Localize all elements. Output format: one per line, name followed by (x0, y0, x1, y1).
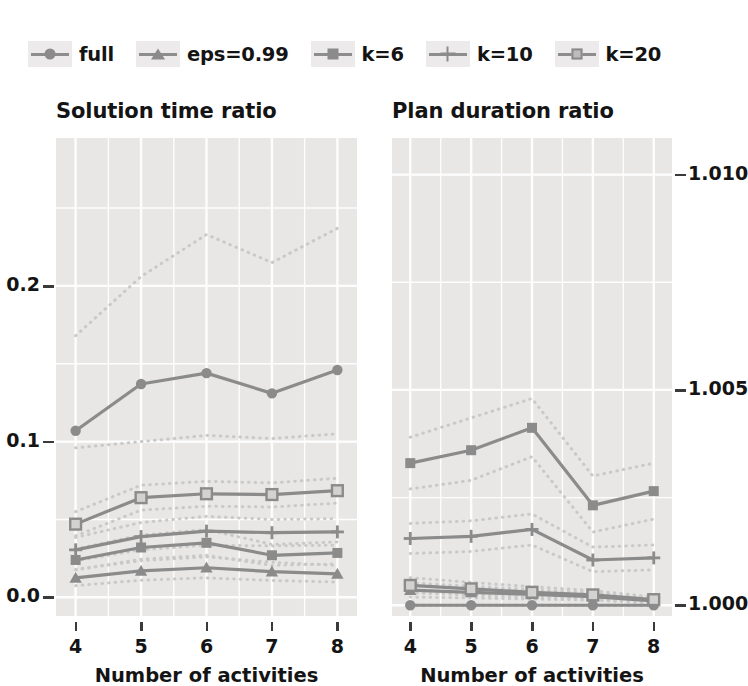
y-tick-label: 0.1 (6, 429, 40, 451)
data-point-k=6 (202, 538, 212, 548)
data-point-k=6 (466, 445, 476, 455)
y-tick-mark (43, 285, 54, 288)
data-point-k=20 (332, 485, 343, 496)
triangle-marker-icon (136, 41, 180, 67)
plot-area-solution-time-ratio (56, 138, 357, 616)
data-point-k=20 (466, 583, 477, 594)
x-tick-label: 4 (398, 635, 422, 657)
x-tick-mark (470, 622, 473, 631)
legend-item-k20: k=20 (555, 41, 662, 67)
data-point-full (527, 600, 537, 610)
x-tick-label: 7 (260, 635, 284, 657)
x-tick-label: 8 (642, 635, 666, 657)
data-point-full (588, 600, 598, 610)
legend-label: k=6 (362, 43, 404, 66)
y-tick-label: 1.005 (688, 377, 748, 399)
data-point-k=6 (267, 550, 277, 560)
plus-marker-icon (426, 41, 470, 67)
x-tick-mark (592, 622, 595, 631)
data-point-k=10 (404, 532, 417, 545)
y-tick-label: 0.0 (6, 584, 40, 606)
y-tick-label: 1.000 (688, 592, 748, 614)
data-point-k=10 (331, 525, 344, 538)
data-point-k=20 (70, 519, 81, 530)
legend-item-full: full (28, 41, 114, 67)
y-tick-mark (675, 604, 686, 607)
x-tick-mark (409, 622, 412, 631)
chart-canvas (392, 138, 672, 616)
data-point-k=10 (69, 543, 82, 556)
y-tick-mark (43, 441, 54, 444)
x-tick-label: 8 (325, 635, 349, 657)
plot-area-plan-duration-ratio (392, 138, 672, 616)
data-point-k=6 (527, 423, 537, 433)
data-point-k=10 (647, 551, 660, 564)
data-point-k=20 (201, 488, 212, 499)
legend-label: k=20 (606, 43, 662, 66)
data-point-k=6 (649, 486, 659, 496)
data-point-full (201, 368, 211, 378)
data-point-full (405, 600, 415, 610)
y-tick-mark (675, 389, 686, 392)
gridlines (392, 138, 672, 616)
panel-title-left: Solution time ratio (56, 99, 277, 123)
open-square-marker-icon (555, 41, 599, 67)
legend-label: full (79, 43, 114, 66)
x-tick-mark (140, 622, 143, 631)
y-tick-label: 0.2 (6, 273, 40, 295)
data-point-k=20 (405, 580, 416, 591)
data-point-k=10 (200, 525, 213, 538)
data-point-k=6 (136, 542, 146, 552)
x-tick-mark (271, 622, 274, 631)
x-tick-mark (653, 622, 656, 631)
x-tick-mark (531, 622, 534, 631)
panel-title-right: Plan duration ratio (392, 99, 614, 123)
x-tick-label: 6 (195, 635, 219, 657)
data-point-k=6 (405, 458, 415, 468)
data-point-full (332, 365, 342, 375)
legend-item-k6: k=6 (311, 41, 404, 67)
data-point-k=20 (136, 492, 147, 503)
chart-canvas (56, 138, 357, 616)
y-tick-mark (43, 596, 54, 599)
data-point-full (70, 426, 80, 436)
data-point-full (136, 379, 146, 389)
x-tick-label: 5 (459, 635, 483, 657)
data-point-k=10 (586, 554, 599, 567)
data-point-k=10 (465, 530, 478, 543)
x-tick-label: 6 (520, 635, 544, 657)
data-point-k=10 (265, 526, 278, 539)
data-point-k=20 (587, 589, 598, 600)
square-marker-icon (311, 41, 355, 67)
circle-marker-icon (28, 41, 72, 67)
x-tick-label: 5 (129, 635, 153, 657)
x-tick-label: 7 (581, 635, 605, 657)
data-point-k=6 (71, 555, 81, 565)
data-point-k=20 (648, 594, 659, 605)
legend-item-eps: eps=0.99 (136, 41, 289, 67)
y-tick-mark (675, 174, 686, 177)
legend-label: eps=0.99 (187, 43, 289, 66)
data-point-k=20 (267, 489, 278, 500)
x-axis-title: Number of activities (56, 664, 357, 686)
x-tick-mark (75, 622, 78, 631)
data-point-k=10 (526, 523, 539, 536)
data-point-full (267, 388, 277, 398)
y-tick-label: 1.010 (688, 162, 748, 184)
data-point-k=10 (135, 530, 148, 543)
chart-legend: full eps=0.99 k=6 k=10 k=20 (0, 36, 738, 72)
x-tick-mark (336, 622, 339, 631)
x-axis-title: Number of activities (392, 664, 672, 686)
data-point-k=6 (332, 548, 342, 558)
legend-label: k=10 (477, 43, 533, 66)
data-point-k=20 (527, 587, 538, 598)
data-point-k=6 (588, 500, 598, 510)
legend-item-k10: k=10 (426, 41, 533, 67)
data-point-full (466, 600, 476, 610)
x-tick-mark (206, 622, 209, 631)
x-tick-label: 4 (64, 635, 88, 657)
